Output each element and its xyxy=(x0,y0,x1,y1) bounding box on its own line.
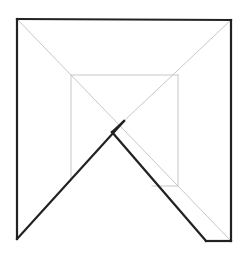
geometric-diagram xyxy=(0,0,240,253)
thin-construction-lines xyxy=(17,19,231,241)
outer-top-edge xyxy=(17,19,231,20)
fold-notch xyxy=(112,121,124,132)
diagram-canvas xyxy=(0,0,240,253)
main-diagonal-tl-br xyxy=(17,19,231,241)
right-falling-diagonal xyxy=(112,132,206,241)
